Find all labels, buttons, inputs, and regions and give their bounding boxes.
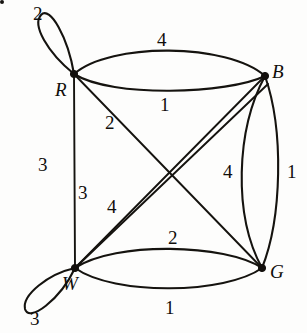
vertex-label-R: R: [55, 80, 67, 99]
edge-weight-W-G-lower: 1: [165, 298, 175, 317]
edge-weight-R-W: 3: [38, 155, 48, 174]
edge-weight-B-G-outer: 1: [287, 162, 297, 181]
edge-R-W: [74, 74, 75, 268]
edge-R-R-loop: [38, 13, 74, 74]
vertex-dot-G: [258, 264, 265, 271]
edge-W-G-lower: [75, 268, 262, 288]
graph-figure: R B W G 2 4 1 3 2 3 4 4 1 2 1 3: [0, 0, 307, 333]
vertex-label-G: G: [270, 262, 284, 281]
edge-R-B-upper: [74, 51, 265, 76]
vertex-dot-W: [71, 264, 78, 271]
edge-weight-W-B-outer: 3: [78, 183, 88, 202]
vertex-label-W: W: [62, 274, 78, 293]
edge-weight-R-B-upper: 4: [157, 30, 167, 49]
edge-weight-W-B-inner: 4: [107, 197, 117, 216]
edge-B-G-outer: [262, 76, 278, 268]
edge-weight-R-R-loop: 2: [33, 4, 43, 23]
edge-weight-W-G-upper: 2: [168, 228, 178, 247]
edge-weight-R-B-lower: 1: [160, 95, 170, 114]
edge-R-B-lower: [74, 74, 265, 91]
edge-weight-B-G-inner: 4: [223, 162, 233, 181]
edge-W-G-upper: [75, 249, 262, 268]
edge-weight-R-G: 2: [105, 113, 115, 132]
vertex-dot-R: [70, 70, 77, 77]
edge-weight-W-W-loop: 3: [30, 309, 40, 328]
vertex-dot-B: [261, 72, 268, 79]
vertex-label-B: B: [272, 62, 284, 81]
